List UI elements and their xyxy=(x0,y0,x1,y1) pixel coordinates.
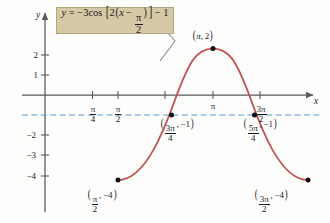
x-tick-pi-over-2: π2 xyxy=(107,100,129,125)
callout-tail xyxy=(160,33,175,61)
point-peak xyxy=(211,46,216,51)
label-trough-left: (π2, −4) xyxy=(87,190,117,215)
figure-container: y = −3cos [2(x − π2)] − 1 y x 2 1 −2 −3 … xyxy=(0,0,330,223)
y-tick-1: 1 xyxy=(22,70,38,80)
y-tick-neg4: −4 xyxy=(20,171,36,181)
label-trough-right: (3π2, −4) xyxy=(254,190,288,215)
point-intercept-left xyxy=(169,113,174,118)
y-tick-2: 2 xyxy=(22,50,38,60)
label-intercept-right: (5π4, −1) xyxy=(243,119,277,144)
point-trough-left xyxy=(116,178,121,183)
y-tick-neg3: −3 xyxy=(20,150,36,160)
y-tick-neg2: −2 xyxy=(20,130,36,140)
equation-text: y = −3cos [2(x − π2)] − 1 xyxy=(61,6,168,35)
label-intercept-left: (3π4, −1) xyxy=(160,119,194,144)
equation-callout: y = −3cos [2(x − π2)] − 1 xyxy=(56,7,174,34)
cosine-curve xyxy=(118,49,308,180)
x-axis-name: x xyxy=(314,96,318,106)
x-tick-pi: π xyxy=(203,101,223,111)
y-axis-name: y xyxy=(36,10,40,20)
x-tick-pi-over-4: π4 xyxy=(82,100,104,125)
label-peak: (π, 2) xyxy=(192,31,213,41)
point-trough-right xyxy=(306,178,311,183)
